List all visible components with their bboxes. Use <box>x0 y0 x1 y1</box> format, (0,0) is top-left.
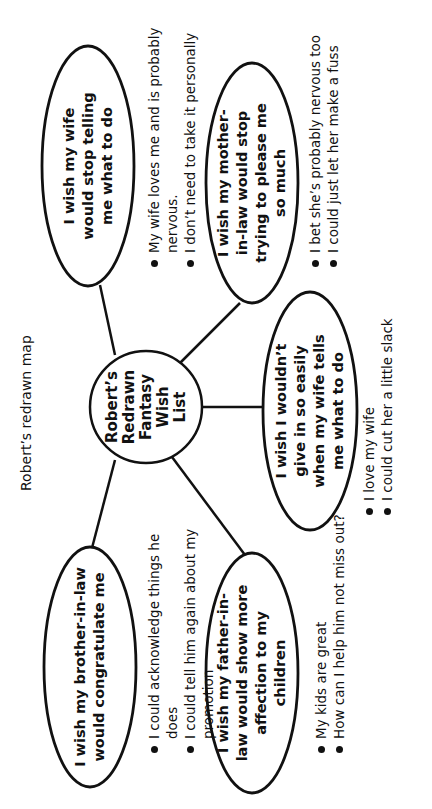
notes-give-in: I love my wife I could cut her a little … <box>360 277 396 517</box>
center-line-2: Redrawn <box>121 370 138 445</box>
node-father-in-law: I wish my father-in-law would show more … <box>216 583 288 763</box>
note-item: My kids are great <box>312 495 330 755</box>
note-item: I could acknowledge things he does <box>145 525 181 755</box>
node-brother-in-law: I wish my brother-in-law would congratul… <box>60 567 120 767</box>
connector-wife <box>100 285 115 355</box>
center-label: Robert’s Redrawn Fantasy Wish List <box>94 355 198 459</box>
note-item: I bet she’s probably nervous too <box>306 9 324 269</box>
note-item: I love my wife <box>360 277 378 517</box>
center-line-5: List <box>172 392 189 423</box>
center-line-3: Fantasy <box>138 374 155 440</box>
note-item: How can I help him not miss out? <box>330 495 348 755</box>
notes-wife: My wife loves me and is probably nervous… <box>145 19 199 269</box>
map-title: Robert’s redrawn map <box>18 335 34 491</box>
notes-brother-in-law: I could acknowledge things he does I cou… <box>145 525 217 755</box>
connector-brother-in-law <box>92 460 115 548</box>
connector-mother-in-law <box>180 303 240 363</box>
note-item: I could cut her a little slack <box>378 277 396 517</box>
mind-map-stage: Robert’s redrawn map Robert’s Redrawn Fa… <box>0 0 432 809</box>
node-mother-in-law: I wish my mother-in-law would stop tryin… <box>216 99 288 267</box>
note-item: I could tell him again about my promotio… <box>181 525 217 755</box>
note-item: I don’t need to take it personally <box>181 19 199 269</box>
center-line-1: Robert’s <box>104 371 121 443</box>
node-wife: I wish my wife would stop telling me wha… <box>52 86 124 246</box>
center-line-4: Wish <box>155 386 172 427</box>
note-item: My wife loves me and is probably nervous… <box>145 19 181 269</box>
notes-mother-in-law: I bet she’s probably nervous too I could… <box>306 9 342 269</box>
notes-father-in-law: My kids are great How can I help him not… <box>312 495 348 755</box>
node-give-in: I wish I wouldn’t give in so easily when… <box>268 331 352 491</box>
note-item: I could just let her make a fuss <box>324 9 342 269</box>
